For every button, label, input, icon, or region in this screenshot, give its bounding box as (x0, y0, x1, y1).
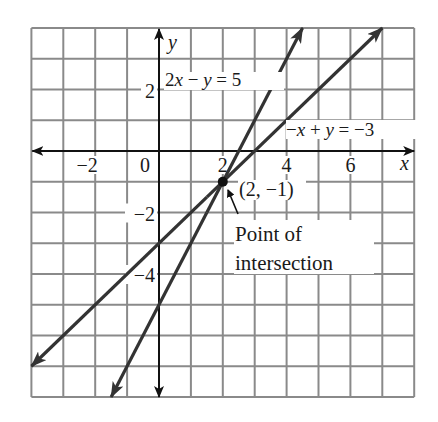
x-tick-label: 0 (140, 154, 150, 176)
y-tick-label: −4 (134, 264, 155, 286)
eq2-label: −x + y = −3 (286, 119, 374, 140)
x-axis-label: x (399, 152, 409, 174)
x-tick-label: −2 (77, 154, 98, 176)
y-tick-label: −2 (134, 203, 155, 225)
callout-line1: Point of (235, 222, 302, 246)
y-tick-label: 2 (145, 80, 155, 102)
point-label: (2, −1) (239, 178, 294, 201)
chart: −202462−2−4 2x − y = 5 −x + y = −3 y x (… (0, 0, 438, 422)
series-line-2 (31, 197, 206, 366)
y-axis-label: y (166, 31, 177, 54)
x-tick-label: 4 (282, 154, 292, 176)
x-tick-label: 6 (345, 154, 355, 176)
callout-line2: intersection (235, 251, 333, 275)
eq1-label: 2x − y = 5 (165, 69, 241, 90)
intersection-point (218, 177, 228, 187)
callout-arrow (228, 190, 238, 214)
